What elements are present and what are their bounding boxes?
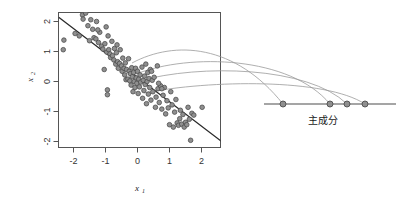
scatter-point: [96, 28, 101, 33]
scatter-point: [177, 116, 182, 121]
y-tick-label-2: 0: [42, 79, 52, 84]
scatter-point: [136, 91, 141, 96]
scatter-point: [188, 138, 193, 143]
scatter-point: [106, 34, 111, 39]
pca-projection-figure: -2 -1 0 1 2 2 1 0 -1 -2 x 2 x 1: [0, 0, 410, 212]
scatter-point: [142, 88, 147, 93]
scatter-point: [105, 92, 110, 97]
scatter-point: [138, 73, 143, 78]
scatter-point: [155, 64, 160, 69]
scatter-point: [90, 27, 95, 32]
scatter-point: [88, 17, 93, 22]
scatter-point: [170, 103, 175, 108]
scatter-point: [200, 105, 205, 110]
scatter-point: [192, 113, 197, 118]
scatter-point: [157, 100, 162, 105]
scatter-point: [149, 69, 154, 74]
scatter-point: [137, 85, 142, 90]
scatter-point: [149, 98, 154, 103]
scatter-point: [186, 105, 191, 110]
x-tick-label-0: -2: [69, 156, 77, 166]
scatter-point: [168, 89, 173, 94]
y-tick-label-1: 1: [42, 49, 52, 54]
scatter-point: [160, 86, 165, 91]
y-tick-label-3: -1: [42, 107, 52, 115]
scatter-point: [87, 38, 92, 43]
scatter-point: [102, 67, 107, 72]
scatter-point: [140, 96, 145, 101]
x-tick-label-2: 0: [135, 156, 140, 166]
pc-point-3: [344, 101, 350, 107]
scatter-point: [181, 112, 186, 117]
scatter-point: [146, 92, 151, 97]
x-tick-label-4: 2: [199, 156, 204, 166]
scatter-point: [94, 19, 99, 24]
scatter-point: [123, 61, 128, 66]
scatter-point: [126, 56, 131, 61]
scatter-point: [174, 97, 179, 102]
scatter-point: [161, 93, 166, 98]
pc-point-4: [362, 101, 368, 107]
scatter-point: [171, 125, 176, 130]
scatter-point: [120, 56, 125, 61]
x-axis-title-subscript: 1: [142, 188, 145, 194]
pc-point-2: [327, 101, 333, 107]
scatter-point: [105, 88, 110, 93]
figure-canvas: -2 -1 0 1 2 2 1 0 -1 -2 x 2 x 1: [0, 0, 410, 212]
scatter-point: [61, 47, 66, 52]
y-axis-title-subscript: 2: [30, 72, 36, 75]
scatter-point: [110, 39, 115, 44]
scatter-point: [81, 17, 86, 22]
scatter-point: [144, 62, 149, 67]
x-tick-label-3: 1: [167, 156, 172, 166]
scatter-point: [103, 41, 108, 46]
scatter-point: [152, 75, 157, 80]
scatter-point: [153, 105, 158, 110]
pc-axis-label: 主成分: [308, 115, 338, 126]
scatter-point: [144, 101, 149, 106]
scatter-point: [154, 95, 159, 100]
scatter-point: [115, 43, 120, 48]
scatter-point: [163, 112, 168, 117]
scatter-point: [62, 38, 67, 43]
y-axis-title-text: x: [25, 78, 35, 83]
scatter-point: [184, 122, 189, 127]
scatter-point: [77, 34, 82, 39]
scatter-point: [86, 23, 91, 28]
scatter-point: [104, 25, 109, 30]
y-tick-label-0: 2: [42, 19, 52, 24]
scatter-point: [122, 73, 127, 78]
scatter-point: [165, 98, 170, 103]
scatter-point: [156, 81, 161, 86]
scatter-point: [147, 85, 152, 90]
scatter-point: [172, 110, 177, 115]
scatter-point: [160, 107, 165, 112]
scatter-point: [151, 89, 156, 94]
x-tick-label-1: -1: [101, 156, 109, 166]
scatter-point: [178, 108, 183, 113]
pc-point-1: [280, 101, 286, 107]
scatter-point: [187, 117, 192, 122]
y-tick-label-4: -2: [42, 137, 52, 145]
scatter-point: [118, 47, 123, 52]
x-axis-title-text: x: [134, 183, 139, 193]
